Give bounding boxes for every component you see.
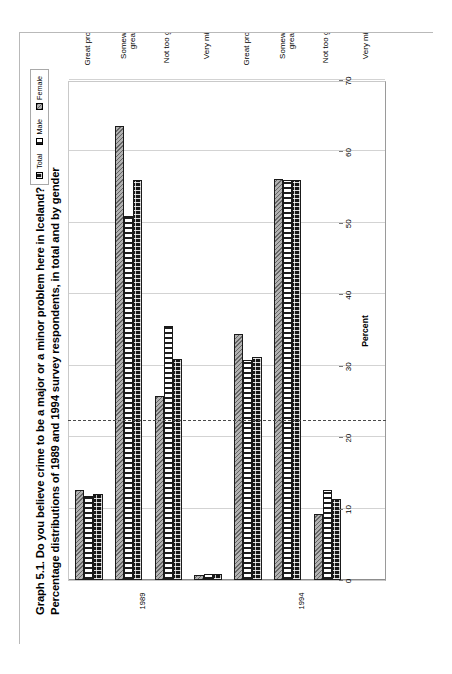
tick-label-30: 30 (344, 362, 353, 371)
tick-mark-70 (339, 80, 343, 81)
legend-swatch-total-icon (36, 172, 43, 179)
tick-label-70: 70 (344, 77, 353, 86)
bar-1994-great-problem-total (252, 357, 261, 580)
chart-stage: Graph 5.1. Do you believe crime to be a … (20, 33, 434, 645)
bar-1994-somewhat-great-total (292, 180, 301, 580)
gridline-70 (69, 79, 385, 80)
legend-item-male: Male (35, 119, 44, 145)
tick-mark-50 (339, 223, 343, 224)
category-label-1989-not-too-great: Not too great (163, 33, 173, 75)
legend-swatch-male-icon (36, 138, 43, 145)
bar-1989-great-problem-female (75, 490, 84, 580)
bar-1994-not-too-great-female (314, 514, 323, 580)
tick-mark-0 (339, 580, 343, 581)
tick-mark-20 (339, 437, 343, 438)
category-label-1994-very-minor: Very minor (361, 33, 371, 75)
tick-label-60: 60 (344, 148, 353, 157)
page-subtitle: Percentage distributions of 1989 and 199… (48, 55, 63, 615)
plot-area (68, 81, 386, 581)
tick-label-0: 0 (344, 579, 353, 583)
tick-mark-10 (339, 509, 343, 510)
bar-1994-somewhat-great-male (283, 180, 292, 580)
bar-1989-very-minor-total (213, 574, 222, 580)
tick-label-10: 10 (344, 505, 353, 514)
legend-swatch-female-icon (36, 103, 43, 110)
value-axis-title: Percent (360, 81, 370, 581)
category-label-1994-not-too-great: Not too great (322, 33, 332, 75)
bar-1989-somewhat-great-female (115, 126, 124, 580)
legend-label-total: Total (35, 154, 44, 169)
chart-legend: Total Male Female (30, 69, 49, 185)
bar-1994-great-problem-female (234, 334, 243, 580)
category-label-1989-great-problem: Great problem (83, 33, 93, 75)
rotated-chart-viewport: Graph 5.1. Do you believe crime to be a … (20, 33, 434, 645)
legend-label-male: Male (35, 119, 44, 135)
legend-item-female: Female (35, 76, 44, 110)
bar-1989-very-minor-male (204, 574, 213, 580)
tick-label-50: 50 (344, 219, 353, 228)
bar-1989-not-too-great-female (155, 396, 164, 580)
bar-1989-not-too-great-total (173, 359, 182, 580)
tick-label-40: 40 (344, 291, 353, 300)
period-label-1989: 1989 (137, 593, 146, 610)
legend-item-total: Total (35, 154, 44, 179)
bar-1994-not-too-great-total (332, 499, 341, 580)
bar-1989-somewhat-great-male (124, 216, 133, 580)
tick-mark-60 (339, 151, 343, 152)
legend-label-female: Female (35, 76, 44, 100)
bar-1994-not-too-great-male (323, 490, 332, 580)
category-label-1994-great-problem: Great problem (242, 33, 252, 75)
category-label-1989-somewhat-great: Somewhatgreat (118, 33, 137, 75)
bar-1994-great-problem-male (243, 360, 252, 580)
bar-1994-somewhat-great-female (274, 179, 283, 580)
bar-1989-very-minor-female (194, 575, 203, 580)
category-label-1989-very-minor: Very minor (202, 33, 212, 75)
period-label-1994: 1994 (296, 593, 305, 610)
category-label-1994-somewhat-great: Somewhatgreat (277, 33, 296, 75)
tick-label-20: 20 (344, 434, 353, 443)
bar-1989-somewhat-great-total (133, 180, 142, 580)
period-divider-line (68, 420, 386, 421)
tick-mark-30 (339, 366, 343, 367)
tick-mark-40 (339, 294, 343, 295)
figure-frame: Graph 5.1. Do you believe crime to be a … (19, 32, 433, 644)
bar-1989-great-problem-total (93, 494, 102, 580)
bar-1989-great-problem-male (84, 496, 93, 580)
bar-1989-not-too-great-male (164, 326, 173, 580)
